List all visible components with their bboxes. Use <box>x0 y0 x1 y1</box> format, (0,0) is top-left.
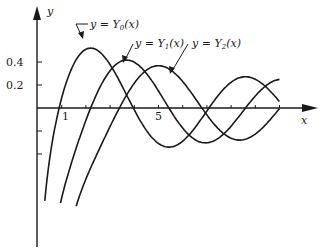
y-axis-arrow-icon <box>33 6 41 20</box>
x-axis-label: x <box>301 114 308 127</box>
y-tick-label-0.4: 0.4 <box>6 56 24 69</box>
x-axis-arrow-icon <box>302 104 318 112</box>
curve-y0 <box>45 48 280 201</box>
label-y1: y = Y1(x) <box>134 37 184 51</box>
y-axis-label: y <box>46 5 54 18</box>
y0-arrowhead-icon <box>78 31 84 39</box>
label-y2: y = Y2(x) <box>191 37 241 51</box>
curve-y1 <box>61 60 280 203</box>
x-tick-label-1: 1 <box>62 110 69 123</box>
label-y0: y = Y0(x) <box>89 18 139 32</box>
x-tick-label-5: 5 <box>155 110 162 123</box>
y-tick-label-0.2: 0.2 <box>6 79 24 92</box>
curve-y2 <box>76 66 279 207</box>
bessel-chart: y x 1 5 0.4 0.2 y = Y0(x) y = Y1(x) y = … <box>0 0 323 248</box>
